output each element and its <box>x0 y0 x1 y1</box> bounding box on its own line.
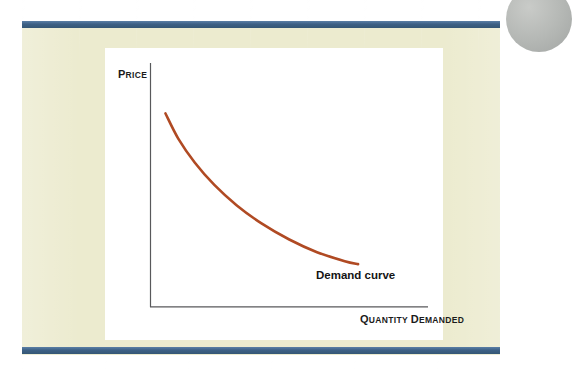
chart-canvas <box>105 48 443 340</box>
x-axis-title-lead2: D <box>411 313 419 325</box>
top-rule-bar <box>22 21 500 28</box>
demand-curve-label: Demand curve <box>316 270 395 282</box>
x-axis-title-lead: Q <box>360 313 369 325</box>
bottom-rule-bar <box>22 347 500 354</box>
figure-card: PRICE QUANTITY DEMANDED Demand curve <box>105 48 443 340</box>
corner-circle-marker <box>506 0 572 52</box>
y-axis-title-lead: P <box>118 68 126 80</box>
demand-curve-chart: PRICE QUANTITY DEMANDED Demand curve <box>105 48 443 340</box>
x-axis-title-rest: UANTITY <box>369 315 408 325</box>
x-axis-title-rest2: EMANDED <box>419 315 464 325</box>
y-axis-title-rest: RICE <box>126 70 148 80</box>
demand-curve-line <box>165 113 358 264</box>
x-axis-title: QUANTITY DEMANDED <box>360 310 464 326</box>
y-axis-title: PRICE <box>118 65 147 81</box>
